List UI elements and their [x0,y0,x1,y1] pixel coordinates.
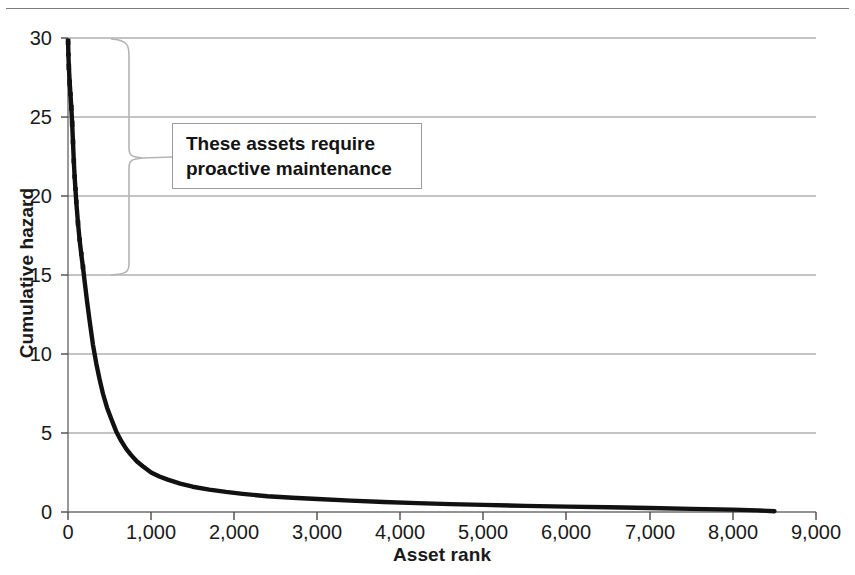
y-tick-marks [61,38,68,512]
hazard-point-marker [69,105,74,111]
annotation-line-2: proactive maintenance [186,156,421,181]
hazard-curve [68,41,774,511]
x-tick-label-9000: 9,000 [761,521,855,544]
hazard-point-marker [72,159,77,164]
gridlines [68,38,816,433]
hazard-point-marker [67,80,72,86]
hazard-point-marker [77,238,82,242]
hazard-point-marker [72,174,77,178]
y-tick-label-30: 30 [0,27,52,50]
hazard-point-marker [68,92,73,96]
hazard-point-marker [76,220,81,225]
chart-figure: 30 25 20 15 10 5 0 0 1,000 2,000 3,000 4… [0,0,855,575]
y-axis-title: Cumulative hazard [16,153,38,393]
x-axis-title: Asset rank [68,544,816,566]
annotation-line-1: These assets require [186,131,421,156]
hazard-point-marker [67,64,72,70]
hazard-point-marker [66,53,71,57]
hazard-point-marker [79,252,84,256]
hazard-point-marker [66,39,71,45]
hazard-point-marker [71,140,76,145]
brace-leader-line [143,157,172,158]
x-tick-marks [68,512,816,520]
cumulative-hazard-plot [0,0,855,575]
hazard-point-marker [74,200,79,204]
annotation-callout-box: These assets require proactive maintenan… [172,123,422,189]
brace-icon [111,39,143,275]
hazard-point-marker [73,187,78,191]
hazard-point-marker [81,265,86,270]
y-tick-label-25: 25 [0,106,52,129]
hazard-point-marker [70,121,75,127]
y-tick-label-5: 5 [0,422,52,445]
